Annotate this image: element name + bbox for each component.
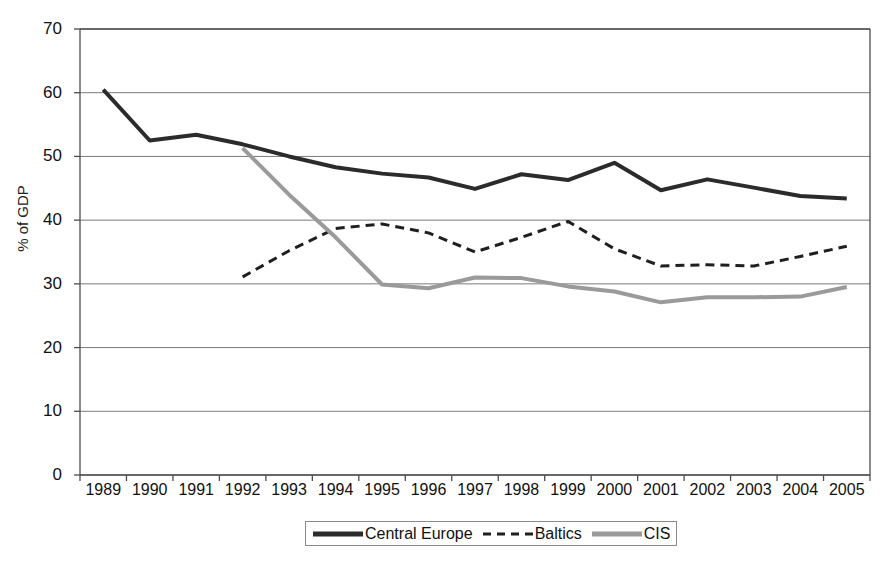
series-line-cis [243, 148, 847, 302]
legend-label: CIS [644, 526, 671, 542]
axis-lines [80, 29, 870, 475]
solid-gray-line-swatch [591, 527, 643, 541]
plot-area [0, 0, 893, 561]
gridlines [80, 29, 870, 475]
legend-label: Central Europe [365, 526, 473, 542]
chart-legend: Central EuropeBalticsCIS [305, 521, 677, 546]
legend-item-cis: CIS [591, 522, 671, 545]
legend-item-baltics: Baltics [482, 522, 582, 545]
dashed-black-line-swatch [482, 527, 534, 541]
y-axis-ticks [74, 29, 80, 475]
line-chart: % of GDP 010203040506070 198919901991199… [0, 0, 893, 561]
solid-black-line-swatch [312, 527, 364, 541]
series-line-baltics [243, 221, 847, 276]
series-line-central-europe [103, 90, 847, 199]
data-series-group [103, 90, 847, 303]
legend-label: Baltics [535, 526, 582, 542]
x-axis-ticks [80, 475, 870, 481]
legend-item-central-europe: Central Europe [312, 522, 473, 545]
